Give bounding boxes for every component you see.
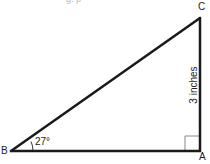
angle-arc-b [31, 142, 33, 152]
right-angle-marker [185, 136, 200, 151]
vertex-label-c: C [198, 2, 205, 12]
side-ac-length-label: 3 inches [189, 63, 199, 107]
triangle-diagram [0, 0, 210, 164]
vertex-label-b: B [1, 146, 8, 156]
side-bc-hypotenuse [11, 18, 200, 151]
vertex-label-a: A [199, 152, 206, 162]
angle-b-label: 27° [35, 137, 50, 147]
